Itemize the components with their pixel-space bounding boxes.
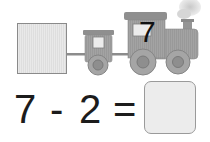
coupler-bar	[66, 53, 86, 56]
equals-sign: =	[113, 86, 136, 132]
operand-2: 2	[79, 86, 101, 132]
coupler-bar	[111, 53, 129, 56]
engine	[124, 0, 201, 75]
answer-input-box[interactable]	[144, 81, 196, 134]
operator: -	[50, 86, 63, 132]
small-car	[83, 30, 114, 75]
operand-1: 7	[14, 86, 36, 132]
train-illustration	[0, 0, 210, 80]
engine-number: 7	[139, 17, 156, 47]
